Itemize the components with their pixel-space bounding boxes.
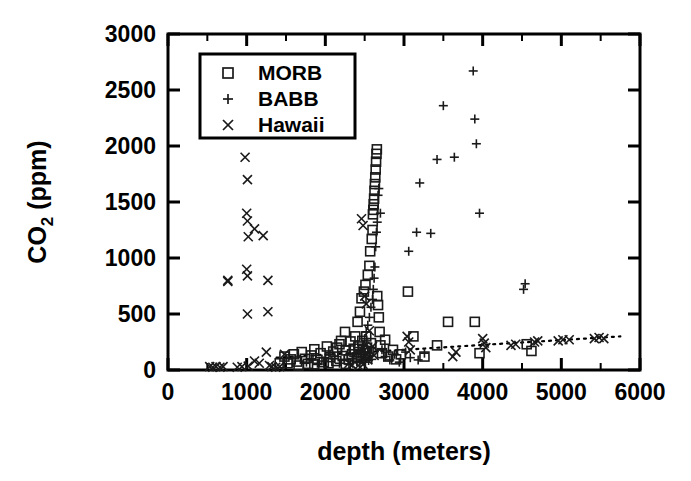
- x-tick-label: 1000: [221, 379, 272, 405]
- legend-markers: [223, 68, 233, 130]
- x-tick-label: 0: [162, 379, 175, 405]
- series-babb-markers: [302, 66, 530, 368]
- plot-frame: [168, 34, 640, 370]
- x-tick-label: 5000: [536, 379, 587, 405]
- y-tick-label: 3000: [105, 21, 156, 47]
- y-axis-title-prefix: CO: [23, 226, 51, 264]
- x-axis-minor-ticks: [207, 34, 600, 370]
- x-axis-title: depth (meters): [317, 437, 491, 465]
- legend-marker-babb: [223, 94, 233, 104]
- scatter-plot-svg: 0100020003000400050006000 05001000150020…: [0, 0, 691, 481]
- x-tick-label: 4000: [457, 379, 508, 405]
- legend-item-label-1: BABB: [258, 87, 319, 110]
- y-tick-label: 2500: [105, 77, 156, 103]
- chart-figure: 0100020003000400050006000 05001000150020…: [0, 0, 691, 481]
- y-axis-title-subscript: 2: [38, 217, 57, 226]
- series-hawaii-markers: [205, 153, 608, 372]
- y-axis-title-suffix: (ppm): [23, 140, 51, 216]
- x-axis-tick-labels: 0100020003000400050006000: [162, 379, 666, 405]
- x-axis-major-ticks: [168, 34, 640, 370]
- y-axis-tick-labels: 050010001500200025003000: [105, 21, 156, 383]
- y-axis-major-ticks: [168, 34, 640, 370]
- legend-marker-hawaii: [223, 120, 233, 130]
- y-tick-label: 2000: [105, 133, 156, 159]
- x-tick-label: 3000: [378, 379, 429, 405]
- legend-item-label-2: Hawaii: [258, 113, 325, 136]
- series-morb-markers: [275, 145, 536, 370]
- legend-marker-morb: [223, 68, 233, 78]
- y-axis-title-group: CO2 (ppm): [23, 140, 57, 263]
- legend: MORB BABB Hawaii: [200, 54, 355, 138]
- x-tick-label: 6000: [614, 379, 665, 405]
- y-tick-label: 1000: [105, 245, 156, 271]
- y-axis-title: CO2 (ppm): [23, 140, 57, 263]
- y-tick-label: 1500: [105, 189, 156, 215]
- y-tick-label: 500: [118, 301, 156, 327]
- legend-item-label-0: MORB: [258, 61, 322, 84]
- y-tick-label: 0: [143, 357, 156, 383]
- x-tick-label: 2000: [300, 379, 351, 405]
